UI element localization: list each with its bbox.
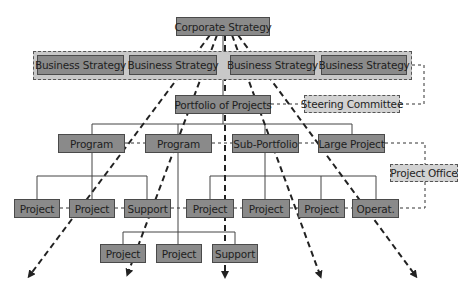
operations-node: Operat. <box>352 199 399 218</box>
business-strategy-node-1: Business Strategy <box>37 55 124 75</box>
project-node: Project <box>242 199 290 218</box>
steering-committee-node: Steering Committee <box>304 95 400 113</box>
support-node: Support <box>124 199 171 218</box>
project-node: Project <box>298 199 345 218</box>
project-node: Project <box>100 244 146 263</box>
program-node-2: Program <box>145 134 212 153</box>
support-node: Support <box>212 244 258 263</box>
corporate-strategy-node: Corporate Strategy <box>176 17 270 36</box>
project-node: Project <box>156 244 202 263</box>
program-node-1: Program <box>58 134 125 153</box>
project-node: Project <box>186 199 234 218</box>
business-strategy-node-3: Business Strategy <box>230 55 315 75</box>
project-office-node: Project Office <box>390 164 458 182</box>
project-node: Project <box>69 199 115 218</box>
sub-portfolio-node: Sub-Portfolio <box>232 134 299 153</box>
business-strategy-node-2: Business Strategy <box>129 55 217 75</box>
portfolio-of-projects-node: Portfolio of Projects <box>175 95 271 114</box>
project-node: Project <box>14 199 60 218</box>
large-project-node: Large Project <box>318 134 385 153</box>
business-strategy-node-4: Business Strategy <box>321 55 407 75</box>
